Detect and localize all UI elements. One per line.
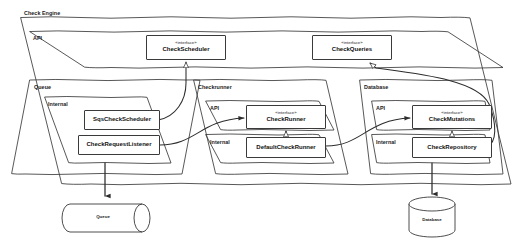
checkrunner-internal-label: Internal	[210, 140, 230, 145]
interface-checkrunner[interactable]: «interface» CheckRunner	[246, 105, 326, 129]
class-checkrepository[interactable]: CheckRepository	[412, 137, 492, 158]
sqscheckscheduler-name: SqsCheckScheduler	[93, 116, 151, 123]
checkrequestlistener-name: CheckRequestListener	[86, 141, 151, 148]
connector-checkrequestlistener-to-checkrunner	[160, 118, 244, 145]
check-engine-package-label: Check Engine	[24, 11, 60, 16]
api-package-label: API	[33, 36, 42, 41]
checkrepository-name: CheckRepository	[427, 144, 476, 151]
checkrunner-package-label: Checkrunner	[198, 85, 232, 90]
connectors	[105, 62, 495, 196]
database-api-label: API	[376, 106, 385, 111]
database-datastore-label: Database	[402, 218, 462, 222]
checkrunner-name: CheckRunner	[266, 116, 305, 123]
class-sqscheckscheduler[interactable]: SqsCheckScheduler	[84, 110, 160, 130]
checkscheduler-name: CheckScheduler	[162, 46, 209, 53]
database-package-label: Database	[364, 85, 388, 90]
checkrunner-api-label: API	[210, 106, 219, 111]
check-engine-outline	[21, 17, 511, 185]
defaultcheckrunner-name: DefaultCheckRunner	[256, 144, 315, 151]
checkqueries-name: CheckQueries	[332, 46, 372, 53]
database-internal-label: Internal	[376, 140, 396, 145]
checkmutations-name: CheckMutations	[429, 116, 475, 123]
queue-internal-label: Internal	[48, 102, 68, 107]
api-package-outline	[30, 31, 503, 68]
architecture-diagram: Check Engine API «interface» CheckSchedu…	[0, 0, 531, 241]
queue-package-label: Queue	[34, 85, 51, 90]
connector-sqscheckscheduler-to-checkscheduler	[158, 62, 186, 120]
interface-checkscheduler[interactable]: «interface» CheckScheduler	[146, 35, 226, 60]
class-checkrequestlistener[interactable]: CheckRequestListener	[78, 135, 160, 155]
interface-checkqueries[interactable]: «interface» CheckQueries	[312, 35, 392, 60]
connector-defaultcheckrunner-to-checkmutations	[326, 118, 410, 146]
queue-datastore-label: Queue	[70, 215, 136, 219]
interface-checkmutations[interactable]: «interface» CheckMutations	[412, 105, 492, 129]
class-defaultcheckrunner[interactable]: DefaultCheckRunner	[246, 137, 326, 158]
package-outlines	[12, 17, 511, 185]
